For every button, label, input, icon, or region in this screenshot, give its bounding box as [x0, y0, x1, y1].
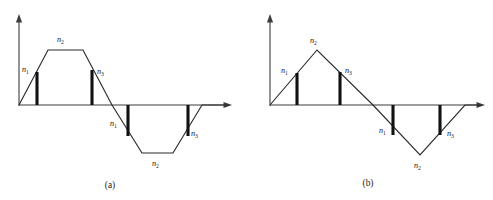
label-a-n2-top: n2	[57, 35, 64, 45]
figure-root: n1 n2 n3 n1 n2 n3 (a)	[0, 0, 493, 200]
labels-b: n1 n2 n3 n1 n2 n3	[281, 36, 454, 171]
panel-b-axes	[267, 14, 485, 108]
label-a-n1-bottom: n1	[110, 119, 117, 129]
y-axis-arrow-a	[16, 14, 22, 23]
label-b-n3-bottom: n3	[447, 129, 454, 139]
label-b-n2-bottom: n2	[414, 161, 421, 171]
label-a-n3-top: n3	[97, 67, 104, 77]
label-b-n3-top: n3	[345, 66, 352, 76]
panel-a-axes	[16, 14, 232, 108]
label-a-n3-bottom: n3	[191, 129, 198, 139]
impulses-b	[297, 72, 440, 135]
label-b-n1-top: n1	[281, 66, 288, 76]
label-b-n1-bottom: n1	[379, 126, 386, 136]
caption-b: (b)	[363, 178, 374, 189]
panel-a: n1 n2 n3 n1 n2 n3 (a)	[16, 14, 232, 191]
panel-b: n1 n2 n3 n1 n2 n3 (b)	[267, 14, 485, 189]
waveform-b	[270, 50, 481, 155]
figure-svg: n1 n2 n3 n1 n2 n3 (a)	[0, 0, 493, 200]
caption-a: (a)	[105, 180, 115, 191]
label-a-n2-bottom: n2	[152, 159, 159, 169]
y-axis-arrow-b	[267, 14, 273, 23]
label-a-n1-top: n1	[22, 65, 29, 75]
label-b-n2-top: n2	[310, 36, 317, 46]
